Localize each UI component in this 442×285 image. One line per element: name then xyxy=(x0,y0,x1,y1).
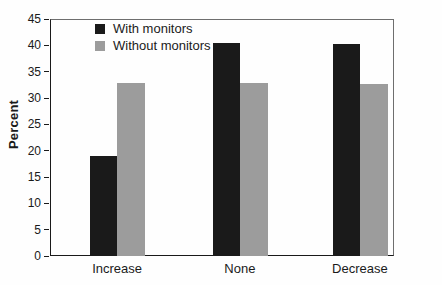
y-tick xyxy=(44,256,49,257)
x-category-label: Increase xyxy=(92,261,142,277)
bar-chart-figure: Percent With monitorsWithout monitors 05… xyxy=(0,0,442,285)
x-axis-labels: IncreaseNoneDecrease xyxy=(50,258,394,280)
legend-item: With monitors xyxy=(95,22,211,36)
y-tick xyxy=(44,203,49,204)
y-tick xyxy=(44,98,49,99)
y-tick xyxy=(44,45,49,46)
legend-swatch-with-monitors xyxy=(95,24,105,34)
y-tick xyxy=(44,229,49,230)
y-axis-title: Percent xyxy=(6,125,21,149)
legend-swatch-without-monitors xyxy=(95,41,105,51)
x-category-label: Decrease xyxy=(332,261,388,277)
x-category-label: None xyxy=(224,261,255,277)
y-tick-label: 15 xyxy=(14,170,41,184)
legend-label: With monitors xyxy=(113,22,192,36)
y-tick xyxy=(44,71,49,72)
y-tick-label: 45 xyxy=(14,12,41,26)
plot-area: With monitorsWithout monitors xyxy=(50,19,394,256)
y-tick xyxy=(44,150,49,151)
legend-item: Without monitors xyxy=(95,39,211,53)
y-tick xyxy=(44,124,49,125)
y-tick-label: 10 xyxy=(14,196,41,210)
legend-label: Without monitors xyxy=(113,39,211,53)
y-tick-label: 5 xyxy=(14,223,41,237)
y-tick xyxy=(44,177,49,178)
y-tick-label: 0 xyxy=(14,249,41,263)
y-tick xyxy=(44,19,49,20)
y-tick-label: 40 xyxy=(14,38,41,52)
legend: With monitorsWithout monitors xyxy=(95,22,211,56)
y-tick-label: 35 xyxy=(14,65,41,79)
